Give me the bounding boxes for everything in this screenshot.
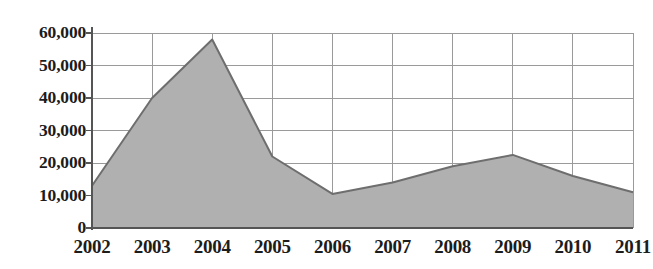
x-axis-tick-label: 2009	[482, 236, 544, 258]
x-axis-tick-label: 2002	[61, 236, 123, 258]
x-axis-tick-label: 2006	[301, 236, 363, 258]
x-axis-tick-label: 2010	[542, 236, 604, 258]
x-axis-tick-label: 2003	[121, 236, 183, 258]
x-axis-tick-label: 2007	[362, 236, 424, 258]
x-axis-tick-label: 2005	[241, 236, 303, 258]
area-chart: 010,00020,00030,00040,00050,00060,000 20…	[0, 0, 653, 269]
x-axis-tick-label: 2004	[181, 236, 243, 258]
x-axis-labels: 2002200320042005200620072008200920102011	[0, 0, 653, 269]
x-axis-tick-label: 2011	[602, 236, 653, 258]
x-axis-tick-label: 2008	[422, 236, 484, 258]
